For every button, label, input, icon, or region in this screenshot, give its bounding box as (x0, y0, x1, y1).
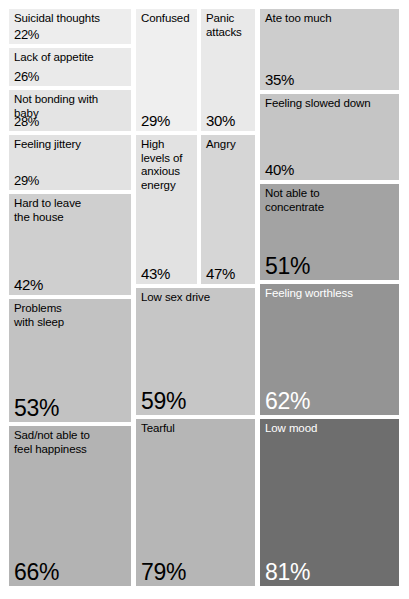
tile-value: 40% (265, 162, 294, 178)
tile-value: 79% (141, 560, 186, 584)
treemap-tile-feeling-slowed-down: Feeling slowed down40% (260, 94, 399, 180)
tile-label: Suicidal thoughts (14, 12, 128, 26)
tile-value: 81% (265, 560, 310, 584)
treemap-tile-feeling-worthless: Feeling worthless62% (260, 284, 399, 415)
treemap-tile-low-mood: Low mood81% (260, 419, 399, 586)
treemap-tile-problems-with-sleep: Problems with sleep53% (9, 299, 131, 422)
treemap-tile-high-levels-of-anxious-energy: High levels of anxious energy43% (136, 135, 197, 284)
tile-label: Feeling jittery (14, 138, 128, 152)
tile-value: 42% (14, 277, 43, 293)
treemap-tile-hard-to-leave-the-house: Hard to leave the house42% (9, 194, 131, 295)
treemap-tile-tearful: Tearful79% (136, 419, 255, 586)
tile-value: 62% (265, 389, 310, 413)
tile-value: 30% (206, 113, 235, 129)
tile-label: High levels of anxious energy (141, 138, 194, 192)
treemap-tile-low-sex-drive: Low sex drive59% (136, 288, 255, 415)
tile-label: Angry (206, 138, 252, 152)
tile-value: 28% (14, 115, 39, 129)
treemap-tile-confused: Confused29% (136, 9, 197, 131)
tile-value: 53% (14, 396, 59, 420)
treemap-tile-not-able-to-concentrate: Not able to concentrate51% (260, 184, 399, 280)
tile-value: 29% (141, 113, 170, 129)
tile-label: Hard to leave the house (14, 197, 128, 224)
tile-value: 66% (14, 560, 59, 584)
tile-label: Ate too much (265, 12, 396, 26)
tile-label: Not able to concentrate (265, 187, 396, 214)
tile-value: 47% (206, 266, 235, 282)
tile-label: Panic attacks (206, 12, 252, 39)
tile-label: Tearful (141, 422, 252, 436)
tile-label: Low mood (265, 422, 396, 436)
treemap-tile-lack-of-appetite: Lack of appetite26% (9, 48, 131, 86)
tile-value: 26% (14, 70, 39, 84)
treemap-tile-not-bonding-with-baby: Not bonding with baby28% (9, 90, 131, 131)
treemap-tile-suicidal-thoughts: Suicidal thoughts22% (9, 9, 131, 44)
tile-label: Low sex drive (141, 291, 252, 305)
tile-label: Problems with sleep (14, 302, 128, 329)
treemap-tile-feeling-jittery: Feeling jittery29% (9, 135, 131, 190)
tile-label: Feeling worthless (265, 287, 396, 301)
tile-value: 51% (265, 254, 310, 278)
symptoms-treemap: Suicidal thoughts22%Lack of appetite26%N… (0, 0, 409, 599)
treemap-tile-angry: Angry47% (201, 135, 255, 284)
tile-value: 35% (265, 72, 294, 88)
tile-label: Feeling slowed down (265, 97, 396, 111)
tile-value: 22% (14, 28, 39, 42)
tile-label: Lack of appetite (14, 51, 128, 65)
tile-value: 43% (141, 266, 170, 282)
treemap-tile-panic-attacks: Panic attacks30% (201, 9, 255, 131)
tile-label: Confused (141, 12, 194, 26)
treemap-tile-sad-not-able-to-feel-happiness: Sad/not able to feel happiness66% (9, 426, 131, 586)
treemap-tile-ate-too-much: Ate too much35% (260, 9, 399, 90)
tile-value: 59% (141, 389, 186, 413)
tile-value: 29% (14, 174, 39, 188)
tile-label: Sad/not able to feel happiness (14, 429, 128, 456)
